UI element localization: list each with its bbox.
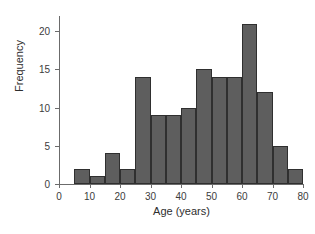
- x-tick-label: 0: [56, 191, 62, 202]
- y-tick-label: 0: [0, 179, 50, 190]
- x-tick-label: 10: [84, 191, 95, 202]
- histogram-bar: [120, 169, 135, 184]
- x-tick-label: 30: [145, 191, 156, 202]
- x-axis-label: Age (years): [59, 205, 304, 217]
- histogram-bar: [212, 77, 227, 184]
- histogram-bar: [151, 115, 166, 184]
- y-tick-label: 5: [0, 140, 50, 151]
- x-tick-label: 60: [236, 191, 247, 202]
- y-tick-mark: [55, 31, 59, 32]
- histogram-bar: [196, 69, 211, 184]
- y-tick-label: 20: [0, 26, 50, 37]
- x-tick-mark: [212, 184, 213, 188]
- x-tick-mark: [181, 184, 182, 188]
- histogram-bar: [90, 176, 105, 184]
- x-tick-mark: [90, 184, 91, 188]
- histogram-bar: [257, 92, 272, 184]
- x-tick-label: 20: [114, 191, 125, 202]
- histogram-bar: [242, 24, 257, 184]
- histogram-bar: [227, 77, 242, 184]
- x-tick-label: 40: [175, 191, 186, 202]
- histogram-bar: [74, 169, 89, 184]
- y-axis-label: Frequency: [13, 11, 25, 121]
- x-tick-label: 70: [267, 191, 278, 202]
- histogram-bar: [181, 108, 196, 184]
- histogram-bar: [105, 153, 120, 184]
- histogram-bar: [273, 146, 288, 184]
- histogram-bar: [135, 77, 150, 184]
- x-tick-mark: [120, 184, 121, 188]
- y-tick-label: 10: [0, 102, 50, 113]
- x-tick-mark: [59, 184, 60, 188]
- histogram-figure: 01020304050607080 05101520 Age (years) F…: [0, 0, 315, 234]
- bars-layer: [59, 16, 303, 184]
- x-tick-mark: [151, 184, 152, 188]
- x-tick-label: 50: [206, 191, 217, 202]
- histogram-bar: [166, 115, 181, 184]
- x-tick-label: 80: [297, 191, 308, 202]
- x-tick-mark: [273, 184, 274, 188]
- y-tick-mark: [55, 184, 59, 185]
- y-tick-mark: [55, 146, 59, 147]
- y-tick-mark: [55, 69, 59, 70]
- y-tick-mark: [55, 108, 59, 109]
- x-tick-mark: [242, 184, 243, 188]
- x-tick-mark: [303, 184, 304, 188]
- y-tick-label: 15: [0, 64, 50, 75]
- histogram-bar: [288, 169, 303, 184]
